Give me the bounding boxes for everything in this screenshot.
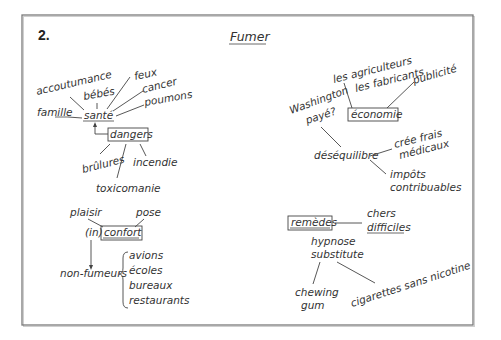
mind-map-canvas: 2. Fumer accoutumance bébés feux cancer … (0, 0, 501, 340)
place-bureaux: bureaux (129, 279, 173, 291)
link-brulures (100, 144, 110, 154)
word-bebes: bébés (82, 85, 116, 102)
word-non-fumeurs: non-fumeurs (60, 267, 128, 279)
word-plaisir: plaisir (69, 206, 102, 218)
node-sante: santé (84, 109, 114, 121)
node-remedes: remèdes (291, 216, 338, 228)
word-chewing: chewing (295, 286, 339, 298)
word-contribuables: contribuables (390, 181, 462, 193)
diagram-title: Fumer (230, 29, 270, 44)
link-washington (321, 127, 341, 147)
word-gum: gum (301, 299, 325, 311)
node-economie: économie (351, 108, 402, 120)
brace-icon (119, 252, 128, 308)
link-cigarettes (337, 262, 375, 283)
word-cigarettes-sans-nicotine: cigarettes sans nicotine (349, 259, 472, 309)
node-desequilibre: déséquilibre (314, 149, 379, 161)
word-impots: impôts (390, 168, 426, 180)
link-publicite (387, 82, 414, 108)
word-chers: chers (367, 207, 396, 219)
node-confort: confort (104, 226, 142, 238)
cluster-remedes: remèdes chers difficiles hypnose substit… (288, 207, 472, 311)
word-brulures: brûlures (81, 153, 127, 175)
cluster-economie: les agriculteurs les fabricants publicit… (288, 54, 462, 193)
link-incendie (140, 144, 146, 156)
cluster-confort: plaisir pose (in) confort non-fumeurs av… (60, 206, 190, 308)
cluster-sante: accoutumance bébés feux cancer poumons f… (35, 65, 194, 194)
word-hypnose: hypnose (311, 235, 356, 247)
word-pose: pose (135, 206, 161, 218)
place-restaurants: restaurants (129, 294, 190, 306)
word-toxicomanie: toxicomanie (96, 182, 161, 194)
word-substitute: substitute (311, 248, 364, 260)
node-dangers: dangers (110, 128, 153, 140)
link-chewing-gum (313, 262, 320, 284)
section-number: 2. (38, 27, 50, 43)
link-impots (370, 160, 386, 174)
place-avions: avions (129, 249, 164, 261)
arrow-dangers-to-sante (95, 124, 108, 134)
word-incendie: incendie (133, 156, 178, 168)
word-difficiles: difficiles (367, 221, 411, 233)
prefix-in: (in) (85, 226, 103, 238)
word-famille: famille (37, 106, 73, 118)
arrow-head-icon (93, 122, 97, 127)
place-ecoles: écoles (129, 264, 163, 276)
